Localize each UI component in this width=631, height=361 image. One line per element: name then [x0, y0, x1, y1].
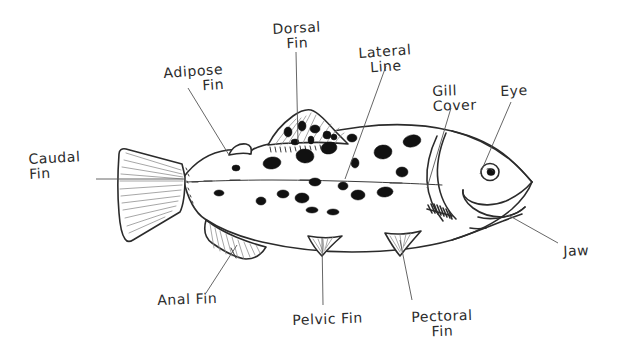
label-jaw-line1: Jaw: [563, 242, 590, 259]
jaw-leader: [508, 215, 558, 243]
label-anal-fin: Anal Fin: [157, 291, 217, 308]
label-gill-cover: GillCover: [432, 82, 477, 114]
label-gill-cover-line2: Cover: [433, 97, 477, 114]
label-caudal-fin-line2: Fin: [29, 164, 82, 182]
label-jaw: Jaw: [563, 243, 589, 259]
label-pelvic-fin-line1: Pelvic Fin: [292, 310, 363, 328]
label-pectoral-fin: PectoralFin: [411, 308, 473, 340]
label-pelvic-fin: Pelvic Fin: [292, 311, 363, 328]
label-pectoral-fin-line2: Fin: [412, 323, 474, 340]
label-dorsal-fin: DorsalFin: [272, 19, 322, 51]
adipose-fin: [229, 144, 251, 155]
fish-anatomy-diagram: .ink { fill:none; stroke:#2b2b2b; stroke…: [0, 0, 631, 361]
label-eye: Eye: [500, 83, 528, 99]
label-lateral-line: LateralLine: [358, 42, 413, 76]
adipose-fin-leader: [188, 88, 229, 155]
chin-notch: [470, 228, 486, 229]
anal-fin-leader: [206, 245, 237, 293]
label-caudal-fin-line1: Caudal: [28, 148, 81, 167]
fish-body-group: [118, 110, 532, 259]
fish-drawing: .ink { fill:none; stroke:#2b2b2b; stroke…: [0, 0, 631, 361]
label-eye-line1: Eye: [500, 82, 528, 99]
label-dorsal-fin-line2: Fin: [273, 34, 322, 52]
label-adipose-fin: AdiposeFin: [163, 62, 225, 96]
label-caudal-fin: CaudalFin: [28, 149, 82, 182]
label-anal-fin-line1: Anal Fin: [157, 290, 217, 308]
